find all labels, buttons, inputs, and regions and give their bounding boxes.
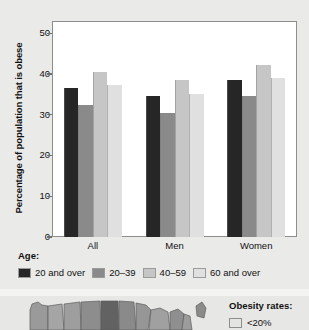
legend-label-3: 60 and over xyxy=(210,267,260,278)
legend-title: Age: xyxy=(18,250,39,261)
legend-swatch-icon-1 xyxy=(92,268,105,278)
map-legend-label: <20% xyxy=(247,317,272,328)
legend-entry-2: 40–59 xyxy=(143,267,186,278)
bar-men-20-39 xyxy=(160,113,175,237)
legend-swatch-icon-0 xyxy=(18,268,31,278)
x-axis-label-all: All xyxy=(52,240,134,252)
legend-label-0: 20 and over xyxy=(35,267,85,278)
bar-group-all xyxy=(64,21,122,237)
obesity-by-age-bar-chart: Percentage of population that is obese 0… xyxy=(0,0,309,289)
legend-swatch-icon-2 xyxy=(143,268,156,278)
bar-women-20-and-over xyxy=(227,80,242,237)
x-axis-label-women: Women xyxy=(215,240,297,252)
bar-all-20-39 xyxy=(78,105,93,237)
legend-label-1: 20–39 xyxy=(109,267,135,278)
bar-all-60-and-over xyxy=(107,85,122,237)
bar-women-20-39 xyxy=(242,96,257,237)
us-map-graphic xyxy=(18,296,218,330)
legend-entry-0: 20 and over xyxy=(18,267,85,278)
map-legend-swatch-icon xyxy=(229,318,242,328)
bars-layer xyxy=(52,21,297,237)
bar-women-40-59 xyxy=(256,65,271,237)
obesity-rates-map-panel: Obesity rates: <20% xyxy=(0,296,309,330)
bar-all-40-59 xyxy=(93,72,108,237)
map-legend-title: Obesity rates: xyxy=(229,300,292,311)
bar-group-men xyxy=(146,21,204,237)
bar-women-60-and-over xyxy=(271,78,286,237)
bar-men-60-and-over xyxy=(189,94,204,237)
bar-men-20-and-over xyxy=(146,96,161,237)
map-legend-entry: <20% xyxy=(229,317,272,328)
y-axis-title: Percentage of population that is obese xyxy=(12,28,26,228)
legend-swatch-icon-3 xyxy=(193,268,206,278)
bar-group-women xyxy=(227,21,285,237)
panel-divider xyxy=(0,289,309,296)
chart-legend: 20 and over20–3940–5960 and over xyxy=(18,267,303,278)
legend-entry-1: 20–39 xyxy=(92,267,135,278)
bar-men-40-59 xyxy=(175,80,190,237)
bar-all-20-and-over xyxy=(64,88,79,237)
legend-label-2: 40–59 xyxy=(160,267,186,278)
legend-entry-3: 60 and over xyxy=(193,267,260,278)
x-axis-label-men: Men xyxy=(134,240,216,252)
